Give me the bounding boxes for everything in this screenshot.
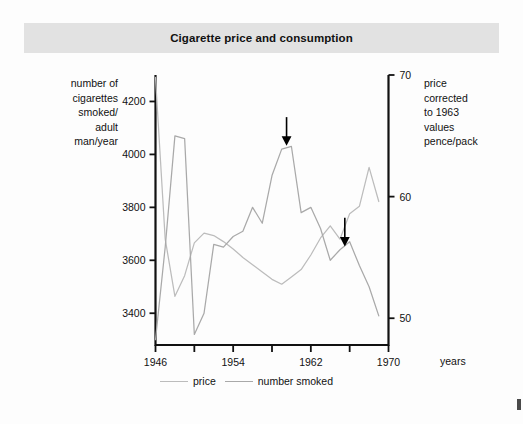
legend-swatch-price <box>160 381 188 382</box>
svg-text:3800: 3800 <box>122 201 146 213</box>
plot-area: 4200400038003600340070605019461954196219… <box>0 0 523 424</box>
legend-item-number-smoked: number smoked <box>225 375 333 387</box>
svg-text:1962: 1962 <box>299 356 323 368</box>
legend-item-price: price <box>160 375 216 387</box>
chart-page: Cigarette price and consumption number o… <box>0 0 523 424</box>
svg-text:1946: 1946 <box>144 356 168 368</box>
data-series <box>156 77 379 339</box>
svg-text:3400: 3400 <box>122 307 146 319</box>
legend-label-number-smoked: number smoked <box>258 375 333 387</box>
axis-ticks <box>150 75 395 352</box>
chart-legend: price number smoked <box>160 375 333 387</box>
annotation-arrows <box>283 117 348 245</box>
svg-text:3600: 3600 <box>122 254 146 266</box>
svg-text:1970: 1970 <box>377 356 401 368</box>
svg-text:4000: 4000 <box>122 148 146 160</box>
svg-text:60: 60 <box>400 191 412 203</box>
page-corner-mark <box>517 399 521 410</box>
svg-text:70: 70 <box>400 69 412 81</box>
svg-text:50: 50 <box>400 312 412 324</box>
legend-swatch-number-smoked <box>225 381 253 382</box>
axis-tick-labels: 4200400038003600340070605019461954196219… <box>122 69 411 368</box>
svg-text:1954: 1954 <box>221 356 245 368</box>
svg-text:4200: 4200 <box>122 95 146 107</box>
legend-label-price: price <box>193 375 216 387</box>
